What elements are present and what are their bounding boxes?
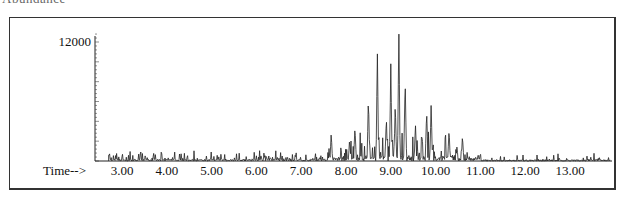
y-tick-label-12000: 12000 bbox=[59, 34, 92, 49]
x-tick-label: 4.00 bbox=[155, 163, 178, 178]
x-tick-label: 5.00 bbox=[200, 163, 223, 178]
x-tick-label: 9.00 bbox=[379, 163, 402, 178]
x-tick-label: 7.00 bbox=[290, 163, 313, 178]
x-tick-label: 12.00 bbox=[511, 163, 540, 178]
chromatogram-chart: 12000 Time--> 3.004.005.006.007.008.009.… bbox=[0, 0, 624, 198]
x-tick-label: 13.00 bbox=[555, 163, 584, 178]
x-tick-label: 6.00 bbox=[245, 163, 268, 178]
chromatogram-trace bbox=[109, 34, 610, 161]
x-tick-label: 8.00 bbox=[335, 163, 358, 178]
y-axis bbox=[95, 34, 99, 161]
x-tick-label: 10.00 bbox=[421, 163, 450, 178]
x-tick-label: 3.00 bbox=[111, 163, 134, 178]
x-tick-labels: 3.004.005.006.007.008.009.0010.0011.0012… bbox=[111, 163, 585, 178]
x-tick-label: 11.00 bbox=[466, 163, 495, 178]
x-axis-prefix: Time--> bbox=[43, 163, 86, 178]
